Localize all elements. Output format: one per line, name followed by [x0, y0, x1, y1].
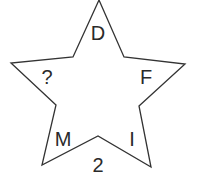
label-upper-left: ?	[41, 66, 52, 88]
star-diagram: D ? F M I 2	[0, 0, 202, 191]
label-lower-right: I	[129, 128, 135, 150]
label-upper-right: F	[140, 66, 152, 88]
label-bottom: 2	[92, 154, 103, 176]
label-top: D	[91, 22, 105, 44]
label-lower-left: M	[55, 128, 72, 150]
